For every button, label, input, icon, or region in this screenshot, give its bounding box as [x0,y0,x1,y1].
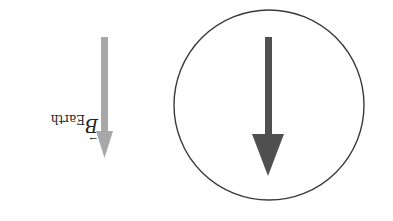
earth-field-label: B Earth → [51,112,99,144]
label-symbol: B [85,115,99,136]
diagram-canvas: B Earth → [0,0,393,221]
label-vector-mark: → [89,134,97,144]
loop-field-arrow [252,37,284,176]
earth-field-arrow [96,37,113,158]
label-subscript: Earth [51,112,85,126]
